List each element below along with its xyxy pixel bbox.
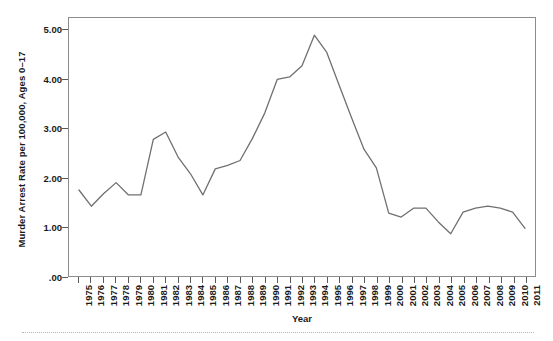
- x-tick-label: 1984: [195, 285, 206, 315]
- x-tick-label: 1987: [232, 285, 243, 315]
- footer-divider: [22, 332, 534, 334]
- x-tick-mark: [153, 277, 154, 283]
- x-tick-label: 1986: [220, 285, 231, 315]
- x-tick-mark: [103, 277, 104, 283]
- x-tick-mark: [364, 277, 365, 283]
- y-tick-label: 4.00: [30, 73, 62, 84]
- x-tick-mark: [339, 277, 340, 283]
- y-tick-mark: [62, 178, 68, 179]
- x-tick-label: 1998: [369, 285, 380, 315]
- x-tick-label: 1992: [295, 285, 306, 315]
- y-tick-mark: [62, 79, 68, 80]
- y-tick-mark: [62, 227, 68, 228]
- murder-arrest-rate-line: [79, 35, 525, 234]
- x-tick-mark: [227, 277, 228, 283]
- x-tick-label: 2010: [519, 285, 530, 315]
- x-tick-mark: [240, 277, 241, 283]
- x-tick-label: 1981: [158, 285, 169, 315]
- chart-figure: Murder Arrest Rate per 100,000, Ages 0–1…: [0, 0, 553, 341]
- x-tick-mark: [90, 277, 91, 283]
- x-tick-mark: [202, 277, 203, 283]
- y-tick-mark: [62, 277, 68, 278]
- x-tick-mark: [352, 277, 353, 283]
- x-tick-mark: [377, 277, 378, 283]
- x-tick-label: 1999: [382, 285, 393, 315]
- x-tick-label: 2007: [481, 285, 492, 315]
- x-tick-label: 2002: [419, 285, 430, 315]
- x-tick-mark: [501, 277, 502, 283]
- x-tick-mark: [140, 277, 141, 283]
- x-tick-mark: [314, 277, 315, 283]
- x-tick-label: 2008: [494, 285, 505, 315]
- x-tick-mark: [414, 277, 415, 283]
- x-tick-label: 1980: [145, 285, 156, 315]
- y-tick-mark: [62, 29, 68, 30]
- x-tick-mark: [277, 277, 278, 283]
- x-tick-mark: [464, 277, 465, 283]
- x-tick-label: 1976: [95, 285, 106, 315]
- x-tick-label: 1985: [207, 285, 218, 315]
- x-tick-mark: [426, 277, 427, 283]
- x-tick-label: 1977: [108, 285, 119, 315]
- y-tick-label: 5.00: [30, 24, 62, 35]
- x-tick-label: 1997: [357, 285, 368, 315]
- y-axis-tick-labels: .001.002.003.004.005.00: [28, 0, 62, 341]
- x-tick-label: 2005: [456, 285, 467, 315]
- y-tick-label: 2.00: [30, 172, 62, 183]
- x-tick-label: 2000: [394, 285, 405, 315]
- x-axis-tick-marks: [68, 277, 536, 283]
- x-tick-mark: [476, 277, 477, 283]
- x-tick-label: 1993: [307, 285, 318, 315]
- x-tick-label: 2006: [469, 285, 480, 315]
- x-tick-mark: [115, 277, 116, 283]
- x-tick-label: 1979: [133, 285, 144, 315]
- x-tick-mark: [252, 277, 253, 283]
- y-tick-label: 3.00: [30, 123, 62, 134]
- x-tick-label: 1991: [282, 285, 293, 315]
- x-tick-label: 2011: [531, 285, 542, 315]
- x-tick-label: 2009: [506, 285, 517, 315]
- x-tick-mark: [302, 277, 303, 283]
- x-tick-mark: [451, 277, 452, 283]
- x-tick-mark: [489, 277, 490, 283]
- x-tick-mark: [178, 277, 179, 283]
- y-tick-label: 1.00: [30, 222, 62, 233]
- x-tick-label: 2001: [407, 285, 418, 315]
- x-tick-label: 1988: [245, 285, 256, 315]
- x-tick-label: 1975: [83, 285, 94, 315]
- x-tick-label: 1983: [183, 285, 194, 315]
- x-tick-mark: [526, 277, 527, 283]
- x-tick-mark: [165, 277, 166, 283]
- x-tick-mark: [78, 277, 79, 283]
- x-axis-title: Year: [68, 313, 536, 324]
- x-tick-mark: [402, 277, 403, 283]
- x-tick-mark: [290, 277, 291, 283]
- x-tick-label: 1996: [344, 285, 355, 315]
- x-tick-label: 1982: [170, 285, 181, 315]
- x-tick-label: 1995: [332, 285, 343, 315]
- x-tick-mark: [514, 277, 515, 283]
- y-tick-label: .00: [30, 272, 62, 283]
- x-tick-mark: [265, 277, 266, 283]
- x-tick-label: 1990: [270, 285, 281, 315]
- x-tick-label: 1994: [319, 285, 330, 315]
- x-tick-mark: [439, 277, 440, 283]
- plot-area: [68, 17, 536, 277]
- x-tick-label: 1989: [257, 285, 268, 315]
- x-tick-label: 2004: [444, 285, 455, 315]
- x-tick-mark: [128, 277, 129, 283]
- x-tick-mark: [215, 277, 216, 283]
- x-tick-mark: [389, 277, 390, 283]
- y-tick-mark: [62, 128, 68, 129]
- x-tick-mark: [190, 277, 191, 283]
- data-line-svg: [69, 18, 535, 276]
- x-tick-label: 1978: [120, 285, 131, 315]
- x-tick-label: 2003: [431, 285, 442, 315]
- x-tick-mark: [327, 277, 328, 283]
- x-axis-tick-labels: 1975197619771978197919801981198219831984…: [68, 285, 536, 315]
